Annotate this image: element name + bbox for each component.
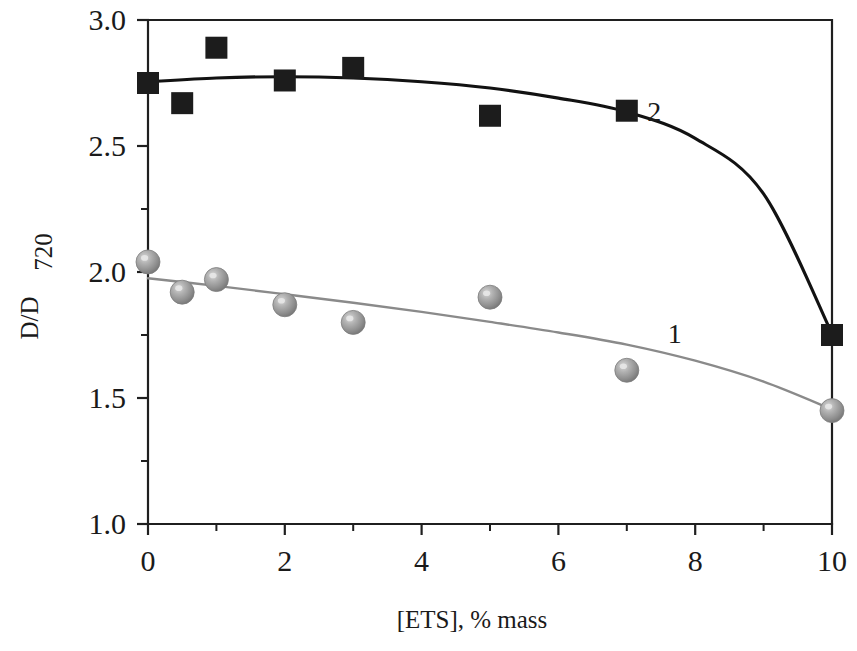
x-axis-title: [ETS], % mass (397, 606, 548, 633)
y-tick-label: 1.5 (89, 381, 127, 414)
axis-labels: 1.01.52.02.53.00246810[ETS], % massD/D72… (16, 3, 847, 633)
y-tick-label: 3.0 (89, 3, 127, 36)
data-point-square (821, 324, 843, 346)
y-axis-title-subscript: 720 (30, 233, 57, 271)
y-tick-label: 2.5 (89, 129, 127, 162)
data-point-square (137, 72, 159, 94)
sphere-highlight (483, 290, 490, 296)
sphere-highlight (825, 404, 832, 410)
y-tick-label: 1.0 (89, 507, 127, 540)
x-tick-label: 2 (277, 544, 292, 577)
data-point-sphere (204, 268, 228, 292)
sphere-highlight (346, 316, 353, 322)
data-markers (136, 37, 844, 423)
data-point-square (616, 100, 638, 122)
sphere-highlight (141, 255, 148, 261)
series-annotation-2: 2 (647, 96, 661, 127)
data-point-sphere (136, 250, 160, 274)
data-point-square (205, 37, 227, 59)
data-point-square (479, 105, 501, 127)
axes (137, 20, 832, 535)
x-tick-label: 10 (817, 544, 847, 577)
data-point-sphere (478, 285, 502, 309)
data-point-sphere (341, 310, 365, 334)
series-annotation-1: 1 (668, 318, 682, 349)
sphere-highlight (175, 285, 182, 291)
data-point-sphere (615, 358, 639, 382)
data-point-square (274, 69, 296, 91)
plot-frame (148, 20, 832, 524)
data-point-sphere (170, 280, 194, 304)
chart-page: 1.01.52.02.53.00246810[ETS], % massD/D72… (0, 0, 857, 651)
y-axis-title: D/D (16, 296, 43, 339)
x-tick-label: 6 (551, 544, 566, 577)
data-point-square (171, 92, 193, 114)
sphere-highlight (278, 298, 285, 304)
series-annotations: 21 (647, 96, 682, 349)
x-tick-label: 0 (141, 544, 156, 577)
data-point-sphere (273, 293, 297, 317)
chart-canvas: 1.01.52.02.53.00246810[ETS], % massD/D72… (0, 0, 857, 651)
sphere-highlight (620, 363, 627, 369)
sphere-highlight (209, 273, 216, 279)
y-tick-label: 2.0 (89, 255, 127, 288)
x-tick-label: 8 (688, 544, 703, 577)
x-tick-label: 4 (414, 544, 429, 577)
data-point-sphere (820, 399, 844, 423)
data-point-square (342, 57, 364, 79)
